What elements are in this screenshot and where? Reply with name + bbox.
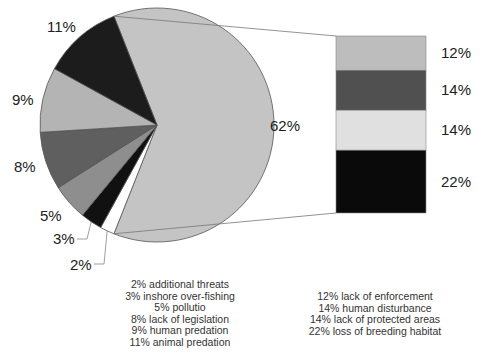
bar-label-lack-of-enforcement: 12% <box>441 44 471 61</box>
pie-label-animal-predation: 11% <box>47 18 76 35</box>
legend-left-item: 2% additional threats <box>100 279 260 291</box>
leader-line-3 <box>77 222 91 239</box>
legend-left-item: 5% pollutio <box>100 302 260 314</box>
legend-right-item: 22% loss of breeding habitat <box>285 326 465 338</box>
legend-right-item: 14% lack of protected areas <box>285 314 465 326</box>
pie-label-pollutio: 5% <box>40 207 62 224</box>
pie-label-additional-threats: 2% <box>70 256 92 273</box>
bar-segment-lack-of-protected-areas <box>336 110 426 150</box>
pie-label-other-threats: 62% <box>270 117 300 134</box>
pie-label-inshore-over-fishing: 3% <box>53 230 75 247</box>
leader-line-2 <box>94 231 107 264</box>
bar-segment-lack-of-enforcement <box>336 36 426 70</box>
legend-left: 2% additional threats 3% inshore over-fi… <box>100 279 260 348</box>
pie-label-human-predation: 9% <box>12 91 34 108</box>
pie-label-lack-of-legislation: 8% <box>14 158 36 175</box>
legend-left-item: 9% human predation <box>100 325 260 337</box>
legend-left-item: 11% animal predation <box>100 337 260 349</box>
legend-right-item: 12% lack of enforcement <box>285 291 465 303</box>
bar-segment-loss-of-breeding-habitat <box>336 150 426 213</box>
legend-right: 12% lack of enforcement 14% human distur… <box>285 291 465 337</box>
bar-label-loss-of-breeding-habitat: 22% <box>441 173 471 190</box>
bar-label-lack-of-protected-areas: 14% <box>441 121 471 138</box>
bar-label-human-disturbance: 14% <box>441 81 471 98</box>
bar-segment-human-disturbance <box>336 70 426 110</box>
